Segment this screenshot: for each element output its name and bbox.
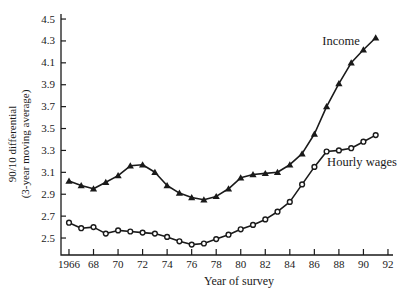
svg-text:3.9: 3.9 — [41, 78, 55, 90]
svg-text:3.1: 3.1 — [41, 166, 55, 178]
series-label-hourly-wages: Hourly wages — [327, 155, 397, 170]
x-axis-label: Year of survey — [204, 274, 274, 289]
y-axis-label-line2: (3-year moving average) — [19, 90, 32, 199]
svg-text:88: 88 — [333, 258, 345, 270]
svg-text:3.5: 3.5 — [41, 122, 55, 134]
svg-text:1966: 1966 — [58, 258, 81, 270]
svg-text:90: 90 — [358, 258, 370, 270]
svg-text:76: 76 — [186, 258, 198, 270]
y-axis-label: 90/10 differential (3-year moving averag… — [6, 90, 32, 199]
svg-text:4.3: 4.3 — [41, 34, 55, 46]
svg-text:86: 86 — [309, 258, 321, 270]
y-axis-label-line1: 90/10 differential — [6, 90, 19, 199]
svg-text:3.3: 3.3 — [41, 144, 55, 156]
svg-text:2.5: 2.5 — [41, 232, 55, 244]
svg-text:2.9: 2.9 — [41, 188, 55, 200]
svg-text:72: 72 — [137, 258, 148, 270]
svg-text:4.5: 4.5 — [41, 13, 55, 25]
svg-text:70: 70 — [113, 258, 125, 270]
svg-text:78: 78 — [211, 258, 223, 270]
svg-text:84: 84 — [284, 258, 296, 270]
svg-text:2.7: 2.7 — [41, 210, 55, 222]
svg-text:80: 80 — [235, 258, 247, 270]
svg-text:82: 82 — [260, 258, 271, 270]
chart-figure: 2.52.72.93.13.33.53.73.94.14.34.51966687… — [0, 0, 404, 303]
svg-text:74: 74 — [162, 258, 174, 270]
svg-text:3.7: 3.7 — [41, 100, 55, 112]
svg-text:68: 68 — [88, 258, 100, 270]
svg-text:4.1: 4.1 — [41, 56, 55, 68]
svg-text:92: 92 — [382, 258, 393, 270]
series-label-income: Income — [322, 34, 359, 49]
